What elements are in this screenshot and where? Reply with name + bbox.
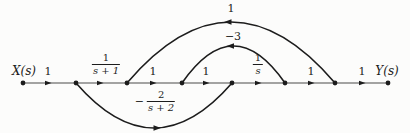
signal-flow-graph: X(s) Y(s) 1 1 1 1 1 1 −3 1 s + 1 1 s − 2… xyxy=(0,0,410,133)
node-n6 xyxy=(333,81,338,86)
fraction-numerator: 1 xyxy=(253,52,263,65)
output-label: Y(s) xyxy=(375,65,398,77)
arrowhead-seg5-icon xyxy=(255,81,262,86)
fraction-numerator: 1 xyxy=(92,52,120,65)
arrowhead-seg2-icon xyxy=(97,81,104,86)
arrowhead-seg1-icon xyxy=(45,81,52,86)
gain-fraction-one-over-s: 1 s xyxy=(253,52,263,77)
arrowhead-seg4-icon xyxy=(203,81,210,86)
arrowhead-seg7-icon xyxy=(359,81,366,86)
gain-fraction-minus-2-over-s-plus-2: − 2 s + 2 xyxy=(135,89,175,114)
node-n1 xyxy=(74,81,79,86)
input-label: X(s) xyxy=(12,65,36,77)
gain-label-n2-n3: 1 xyxy=(150,66,157,78)
minus-sign: − xyxy=(135,96,144,108)
fraction-body: 2 s + 2 xyxy=(147,89,175,114)
node-n4 xyxy=(230,81,235,86)
node-n5 xyxy=(283,81,288,86)
fraction-denominator: s + 2 xyxy=(147,102,175,114)
fraction-numerator: 2 xyxy=(147,89,175,102)
arrowhead-inner-arc-icon xyxy=(227,43,235,48)
arrowhead-outer-arc-icon xyxy=(224,19,232,24)
gain-label-n6-y: 1 xyxy=(359,66,366,78)
node-n2 xyxy=(125,81,130,86)
arrowhead-bottom-arc-icon xyxy=(154,125,162,130)
arrowhead-seg3-icon xyxy=(150,81,157,86)
node-output xyxy=(386,81,391,86)
fraction-denominator: s xyxy=(254,65,261,77)
gain-label-outer-arc: 1 xyxy=(228,3,235,15)
branch-inner-arc xyxy=(182,46,285,83)
gain-label-inner-arc: −3 xyxy=(225,31,241,43)
gain-label-n3-n4: 1 xyxy=(203,66,210,78)
arrowhead-seg6-icon xyxy=(308,81,315,86)
gain-label-n5-n6: 1 xyxy=(308,66,315,78)
gain-fraction-s-plus-1: 1 s + 1 xyxy=(92,52,120,77)
fraction-denominator: s + 1 xyxy=(92,65,120,77)
node-n3 xyxy=(180,81,185,86)
gain-label-x-n1: 1 xyxy=(45,66,52,78)
node-input xyxy=(21,81,26,86)
